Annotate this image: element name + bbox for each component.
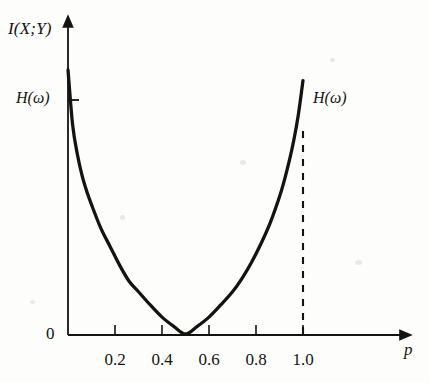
right-entropy-annotation: H(ω) [313,90,347,106]
y-axis-label: I(X;Y) [8,20,52,37]
x-axis-label: p [404,341,413,358]
figure-canvas: I(X;Y) H(ω) H(ω) 0 p 0.2 0.4 0.6 0.8 1.0 [0,0,429,383]
mutual-information-curve [68,70,303,334]
x-axis-ticks [115,325,303,335]
x-tick-label-0-6: 0.6 [198,350,219,370]
x-tick-label-1-0: 1.0 [292,350,313,370]
left-entropy-annotation: H(ω) [16,90,50,106]
origin-label: 0 [46,325,55,342]
x-tick-label-0-2: 0.2 [104,350,125,370]
x-tick-label-0-4: 0.4 [151,350,172,370]
x-tick-label-0-8: 0.8 [245,350,266,370]
mutual-information-plot [0,0,429,383]
